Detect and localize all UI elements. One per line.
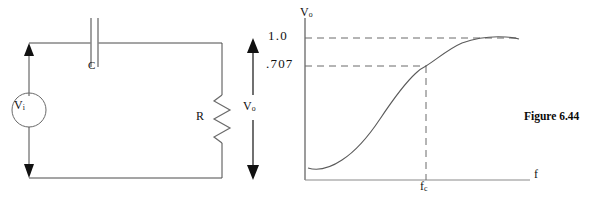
output-arrow-up-head	[247, 38, 259, 53]
source-label: Vi	[14, 99, 25, 112]
ytick-label-unity: 1.0	[268, 29, 288, 42]
figure-container: C R Vi Vo Vo 1.0 .707 fc f Figure 6.44	[0, 0, 597, 204]
output-voltage-label: Vo	[243, 100, 256, 113]
response-curve	[308, 37, 519, 169]
source-label-main: V	[14, 98, 23, 112]
arrowhead-source-down	[24, 164, 34, 178]
output-voltage-sub: o	[252, 104, 256, 113]
resistor-label: R	[196, 110, 204, 122]
frequency-response-plot	[305, 18, 530, 180]
resistor-symbol	[214, 95, 230, 143]
output-voltage-main: V	[243, 99, 252, 113]
plot-x-axis-label: f	[534, 168, 538, 180]
plot-y-axis-label-sub: o	[309, 10, 313, 19]
figure-caption: Figure 6.44	[524, 110, 579, 122]
capacitor-label: C	[88, 60, 95, 71]
circuit-diagram	[12, 18, 259, 180]
figure-drawing	[0, 0, 597, 204]
source-label-sub: i	[23, 103, 25, 112]
xtick-label-cutoff-frequency: fc	[420, 180, 427, 193]
xtick-label-sub: c	[424, 184, 427, 193]
plot-y-axis-label: Vo	[300, 6, 313, 19]
plot-y-axis-label-main: V	[300, 5, 309, 19]
ytick-label-cutoff: .707	[266, 57, 294, 70]
arrowhead-source-up	[24, 43, 34, 56]
output-arrow-down-head	[247, 165, 259, 180]
